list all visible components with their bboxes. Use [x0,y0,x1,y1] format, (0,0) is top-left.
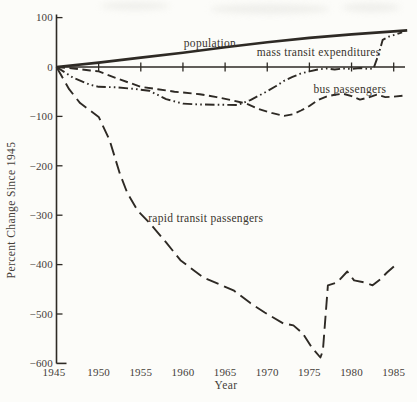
series-label-rapid-transit-passengers: rapid transit passengers [148,212,263,225]
y-tick-label: −400 [29,258,53,270]
y-tick-label: −300 [29,209,53,221]
x-axis-title: Year [215,379,238,391]
y-axis-title: Percent Change Since 1945 [5,142,18,279]
series-label-bus-passengers: bus passengers [313,83,386,96]
series-label-population: population [184,37,236,50]
y-tick-label: 0 [47,61,53,73]
y-tick-label: −500 [29,308,53,320]
x-tick-label: 1975 [298,366,321,378]
x-tick-label: 1960 [172,366,195,378]
chart-figure: 1000−100−200−300−400−500−600194519501955… [0,0,417,402]
x-tick-label: 1980 [340,366,363,378]
x-tick-label: 1950 [87,366,110,378]
y-tick-label: 100 [36,11,53,23]
x-tick-label: 1970 [256,366,279,378]
x-tick-label: 1955 [129,366,152,378]
y-tick-label: −200 [29,160,53,172]
series-label-mass-transit-expenditures: mass transit expenditures [257,46,381,59]
y-tick-label: −100 [29,110,53,122]
x-tick-label: 1985 [382,366,405,378]
chart-svg: 1000−100−200−300−400−500−600194519501955… [0,0,417,402]
x-tick-label: 1945 [43,366,66,378]
x-tick-label: 1965 [214,366,237,378]
